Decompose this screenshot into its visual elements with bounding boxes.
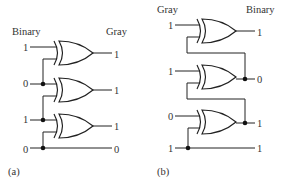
part-a-output-g0: 0 [114,144,119,155]
part-b-junction-dot [243,121,248,126]
part-a-xor-gate-1 [54,41,93,65]
part-b-input-g1: 0 [168,111,173,122]
part-a-input-b2: 0 [23,78,28,89]
part-a-output-g1: 1 [114,121,119,132]
part-b-xor-gate-1 [197,19,236,43]
part-b-junction-dot [186,146,191,151]
part-a-output-header: Gray [106,26,128,37]
part-b-xor-gate-2 [197,65,236,89]
part-a-output-g3: 1 [114,49,119,60]
part-b-caption: (b) [157,166,170,178]
part-b-input-g2: 1 [168,66,173,77]
part-a-junction-dot [41,146,46,151]
part-a-xor-gate-2 [54,78,93,102]
part-a-junction-dot [41,82,46,87]
part-b-input-header: Gray [157,4,179,15]
part-a-input-b1: 1 [23,114,28,125]
part-a-binary-to-gray: Binary Gray 1 0 1 0 1 1 1 0 [8,26,128,178]
part-a-input-header: Binary [12,26,41,37]
part-a-input-b3: 1 [23,42,28,53]
part-b-output-b3: 1 [257,27,262,38]
part-a-input-b0: 0 [23,144,28,155]
part-a-caption: (a) [8,166,20,178]
part-b-junction-dot [243,77,248,82]
part-b-xor-gate-3 [197,110,236,134]
part-b-output-b2: 0 [257,74,262,85]
part-b-input-g3: 1 [168,20,173,31]
binary-gray-conversion-diagram: Binary Gray 1 0 1 0 1 1 1 0 [0,0,284,185]
part-a-xor-gate-3 [54,114,93,138]
part-a-output-g2: 1 [114,85,119,96]
part-b-output-header: Binary [246,4,275,15]
part-b-output-b1: 1 [257,118,262,129]
part-b-output-b0: 1 [257,143,262,154]
part-b-input-g0: 1 [168,143,173,154]
part-a-junction-dot [41,118,46,123]
part-b-gray-to-binary: Gray Binary 1 1 0 1 1 0 1 1 [157,4,275,178]
